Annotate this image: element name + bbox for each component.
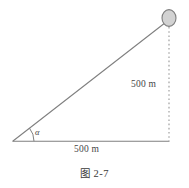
figure-container: 500 m 500 m α 图 2-7 [0, 0, 189, 188]
base-label: 500 m [74, 144, 99, 154]
triangle-diagram [0, 0, 189, 188]
figure-caption: 图 2-7 [0, 165, 189, 180]
angle-arc-icon [29, 128, 34, 141]
ball-icon [162, 10, 176, 27]
angle-label: α [35, 127, 40, 137]
height-label: 500 m [131, 79, 156, 89]
